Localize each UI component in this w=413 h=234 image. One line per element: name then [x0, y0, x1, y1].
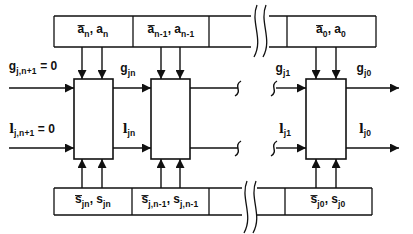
sum-label-j0: sj0, sj0	[310, 193, 345, 209]
sum-label-jn: sjn, sjn	[75, 193, 111, 209]
label-g-j0: gj0	[357, 62, 372, 78]
sum-arrows	[82, 159, 336, 188]
l-wires	[9, 141, 399, 156]
label-l-jn: ljn	[123, 122, 136, 139]
sum-label-jn-1: sj,n-1, sj,n-1	[141, 193, 198, 209]
adder-cell-n-1	[151, 79, 190, 159]
label-l-j1: lj1	[279, 122, 291, 139]
break-mark-icon	[244, 181, 248, 233]
break-mark-icon	[253, 181, 257, 233]
adder-cell-0	[306, 79, 346, 159]
adder-block-diagram: gj,n+1 = 0 lj,n+1 = 0 gjn ljn gj1 lj1 gj…	[0, 0, 413, 234]
operand-label-n: an, an	[78, 23, 109, 39]
label-g-j1: gj1	[276, 62, 291, 78]
break-mark-icon	[254, 5, 258, 57]
adder-cell-n	[74, 79, 113, 159]
diagram-lines	[0, 0, 413, 234]
label-l-input-zero: lj,n+1 = 0	[9, 122, 55, 139]
operand-label-n-1: an-1, an-1	[148, 23, 195, 39]
operand-label-0: a0, a0	[316, 23, 346, 39]
label-g-input-zero: gj,n+1 = 0	[9, 60, 57, 76]
label-l-j0: lj0	[359, 122, 371, 139]
g-wires	[9, 81, 399, 96]
label-g-jn: gjn	[120, 62, 135, 78]
break-mark-icon	[263, 5, 267, 57]
